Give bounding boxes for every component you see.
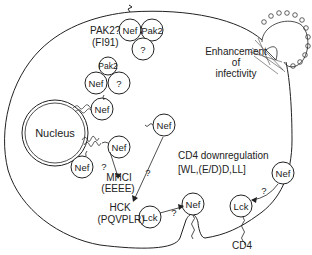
svg-text:Nef: Nef — [186, 199, 201, 210]
cd4-label: CD4 — [232, 240, 252, 251]
svg-text:?: ? — [261, 185, 266, 196]
svg-text:Lck: Lck — [234, 201, 249, 212]
svg-text:Nef: Nef — [123, 25, 138, 36]
hck-motif: (PQVPLR) — [91, 214, 151, 225]
svg-text:?: ? — [140, 44, 145, 55]
mhc-label: MHCI — [101, 172, 137, 183]
svg-text:Nef: Nef — [157, 120, 172, 131]
pak2-motif: (FI91) — [92, 37, 119, 48]
cd4-motif: [WL,(E/D)D,LL] — [178, 164, 246, 175]
diagram-canvas: Nucleus Nef Pak2 ? Pak2 Nef ? Nef Nef Ne… — [0, 0, 312, 255]
svg-text:Nef: Nef — [112, 142, 127, 153]
svg-text:?: ? — [171, 207, 176, 218]
svg-text:Nef: Nef — [276, 168, 291, 179]
enhancement-label: Enhancement of infectivity — [203, 46, 269, 79]
svg-text:Nef: Nef — [89, 78, 104, 89]
svg-text:Nef: Nef — [95, 104, 110, 115]
cd4-downregulation-label: CD4 downregulation — [178, 150, 269, 161]
svg-text:Nef: Nef — [75, 162, 90, 173]
pak2-label: PAK2? — [90, 25, 120, 36]
svg-text:Pak2: Pak2 — [141, 25, 163, 36]
svg-text:?: ? — [116, 78, 121, 89]
svg-text:?: ? — [101, 161, 106, 172]
hck-label: HCK — [100, 202, 140, 213]
nucleus-label: Nucleus — [35, 127, 75, 139]
svg-text:?: ? — [145, 167, 150, 178]
svg-text:Pak2: Pak2 — [98, 61, 118, 71]
mhc-motif: (EEEE) — [96, 183, 140, 194]
